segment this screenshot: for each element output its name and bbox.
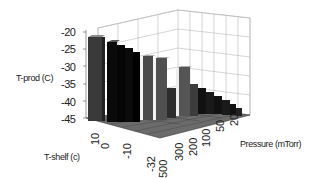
y-tick-label: -10 bbox=[121, 143, 133, 159]
z-axis bbox=[83, 30, 86, 118]
z-tick-label: -45 bbox=[61, 113, 75, 125]
x-tick-label: 20 bbox=[228, 114, 240, 126]
x-tick-label: 200 bbox=[187, 138, 199, 156]
z-tick-label: -25 bbox=[61, 43, 75, 55]
x-tick-label: 100 bbox=[200, 129, 212, 147]
x-tick-label: 50 bbox=[214, 120, 226, 132]
x-tick-label: 300 bbox=[173, 143, 185, 161]
bar-front-tall bbox=[88, 35, 105, 121]
z-tick-label: -20 bbox=[61, 26, 75, 38]
z-axis-title: T-prod (C) bbox=[16, 73, 53, 83]
y-tick-label: 0 bbox=[99, 143, 111, 149]
z-tick-label: -40 bbox=[61, 96, 75, 108]
x-tick-label: 500 bbox=[157, 160, 169, 178]
bars-row-10 bbox=[107, 40, 140, 122]
y-axis-title: T-shelf (c) bbox=[44, 152, 80, 162]
y-tick-label: -32 bbox=[145, 156, 157, 172]
z-tick-label: -30 bbox=[61, 61, 75, 73]
z-tick-label: -35 bbox=[61, 78, 75, 90]
x-axis-title: Pressure (mTorr) bbox=[240, 139, 301, 149]
